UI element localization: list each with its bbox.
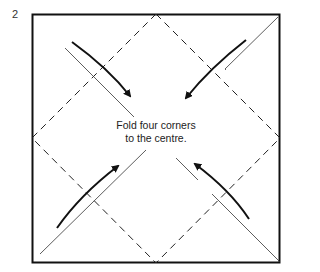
crease-bottom-right [212, 194, 280, 262]
arrow-bottom-right-icon [195, 164, 249, 219]
arrow-top-right-icon [186, 40, 246, 98]
crease-top-right-inner [225, 69, 226, 70]
instruction-caption: Fold four corners to the centre. [96, 119, 216, 145]
caption-line-1: Fold four corners [96, 119, 216, 132]
arrow-bottom-left-icon [57, 166, 118, 228]
crease-bottom-left [40, 150, 146, 254]
crease-top-left [65, 48, 134, 117]
crease-top-right [225, 17, 278, 69]
crease-bottom-right-upper [176, 158, 198, 180]
caption-line-2: to the centre. [96, 132, 216, 145]
